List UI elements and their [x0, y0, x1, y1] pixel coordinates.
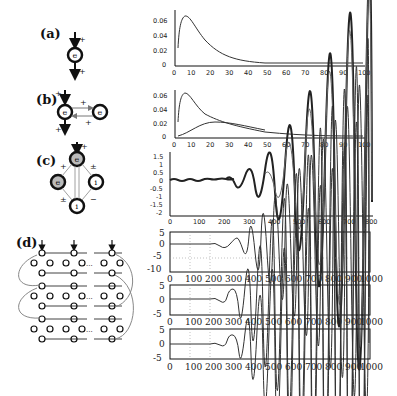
svg-text:5: 5	[159, 325, 165, 335]
svg-text:+: +	[55, 125, 62, 134]
svg-text:-2: -2	[156, 209, 162, 217]
svg-text:0: 0	[168, 218, 172, 226]
svg-text:30: 30	[225, 141, 233, 149]
svg-text:300: 300	[243, 218, 255, 226]
svg-text:200: 200	[205, 317, 222, 327]
svg-text:0.04: 0.04	[153, 106, 167, 114]
panel-label-a: (a)	[40, 26, 61, 41]
svg-text:20: 20	[206, 69, 214, 77]
svg-text:0: 0	[167, 362, 173, 372]
svg-text:500: 500	[265, 362, 282, 372]
svg-text:100: 100	[193, 218, 205, 226]
svg-text:+: +	[85, 118, 92, 127]
diagram-d: ... ... ...	[12, 240, 147, 360]
svg-text:400: 400	[245, 362, 262, 372]
svg-text:5: 5	[159, 228, 165, 238]
svg-text:200: 200	[218, 218, 230, 226]
svg-text:300: 300	[225, 362, 242, 372]
svg-text:0.5: 0.5	[153, 169, 163, 177]
svg-text:10: 10	[187, 141, 195, 149]
svg-text:700: 700	[305, 317, 322, 327]
svg-text:-5: -5	[153, 309, 162, 319]
ellipsis: ...	[86, 260, 93, 268]
svg-text:±: ±	[90, 162, 97, 171]
svg-text:0: 0	[167, 317, 173, 327]
svg-text:+: +	[60, 162, 67, 171]
svg-text:-1: -1	[156, 193, 162, 201]
diagram-a: + e +	[60, 30, 100, 90]
chart-d-top: 50-5-10 01002003004005006007008009001000	[165, 230, 395, 285]
svg-text:−: −	[90, 195, 97, 204]
svg-text:-10: -10	[147, 264, 162, 274]
svg-text:0: 0	[159, 177, 163, 185]
svg-text:0: 0	[159, 295, 165, 305]
svg-text:60: 60	[282, 69, 290, 77]
svg-text:-0.5: -0.5	[150, 185, 163, 193]
svg-text:10: 10	[187, 69, 195, 77]
svg-text:600: 600	[285, 362, 302, 372]
svg-text:500: 500	[265, 317, 282, 327]
svg-text:100: 100	[185, 317, 202, 327]
svg-text:+: +	[79, 67, 86, 76]
svg-text:0.02: 0.02	[153, 120, 167, 128]
svg-text:e: e	[98, 108, 103, 117]
svg-text:...: ...	[86, 326, 93, 334]
svg-text:0.06: 0.06	[153, 92, 167, 100]
svg-text:1000: 1000	[360, 317, 383, 327]
svg-text:e: e	[73, 51, 78, 60]
svg-text:+: +	[80, 98, 87, 107]
svg-text:1: 1	[159, 161, 163, 169]
svg-text:e: e	[75, 155, 80, 164]
svg-text:0.06: 0.06	[153, 17, 167, 25]
svg-text:+: +	[81, 142, 88, 151]
svg-text:30: 30	[225, 69, 233, 77]
svg-text:0.02: 0.02	[153, 47, 167, 55]
svg-text:0: 0	[162, 133, 166, 141]
svg-text:40: 40	[244, 69, 252, 77]
svg-text:+: +	[55, 89, 62, 98]
svg-text:5: 5	[159, 281, 165, 291]
svg-text:100: 100	[185, 362, 202, 372]
svg-text:-5: -5	[153, 251, 162, 261]
svg-text:0: 0	[172, 69, 176, 77]
svg-text:...: ...	[86, 293, 93, 301]
svg-text:40: 40	[244, 141, 252, 149]
svg-text:0: 0	[162, 61, 166, 69]
svg-text:-5: -5	[153, 353, 162, 363]
svg-text:e: e	[63, 108, 68, 117]
svg-text:0: 0	[172, 141, 176, 149]
svg-text:20: 20	[206, 141, 214, 149]
svg-text:300: 300	[225, 317, 242, 327]
chart-a: 0.060.04 0.020 0102030405060708090100	[165, 8, 395, 78]
chart-c: 1.510.50-0.5-1-1.5-2 0100200300400500600…	[165, 150, 395, 225]
svg-text:0: 0	[159, 239, 165, 249]
svg-text:1000: 1000	[360, 362, 383, 372]
diagram-c: + e e i i + ± ± −	[50, 142, 120, 217]
svg-text:400: 400	[268, 218, 280, 226]
svg-text:0: 0	[159, 339, 165, 349]
svg-text:1.5: 1.5	[153, 153, 163, 161]
svg-text:0.04: 0.04	[153, 32, 167, 40]
svg-text:50: 50	[263, 69, 271, 77]
svg-text:i: i	[95, 178, 98, 187]
svg-text:70: 70	[301, 69, 309, 77]
svg-text:-1.5: -1.5	[150, 201, 163, 209]
svg-text:50: 50	[263, 141, 271, 149]
svg-text:i: i	[76, 202, 79, 211]
svg-text:800: 800	[325, 317, 342, 327]
svg-text:800: 800	[325, 362, 342, 372]
svg-text:700: 700	[305, 362, 322, 372]
svg-text:+: +	[79, 35, 86, 44]
svg-text:200: 200	[205, 362, 222, 372]
diagram-b: + e e + + +	[55, 88, 125, 138]
svg-text:800: 800	[365, 218, 377, 226]
svg-text:600: 600	[318, 218, 330, 226]
svg-text:±: ±	[60, 195, 67, 204]
svg-text:e: e	[56, 178, 61, 187]
chart-d-bottom: 50-5 01002003004005006007008009001000	[165, 327, 395, 382]
svg-text:500: 500	[293, 218, 305, 226]
